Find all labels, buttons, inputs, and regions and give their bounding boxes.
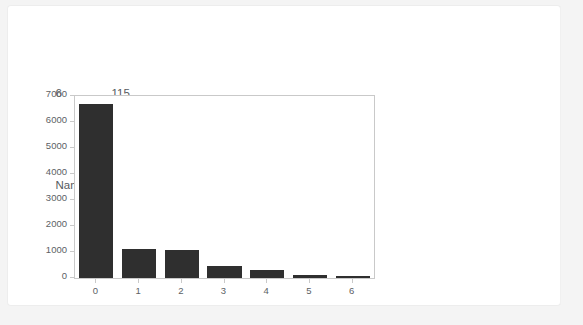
bar <box>250 270 284 278</box>
x-axis-tick-mark <box>352 279 353 283</box>
bars-layer <box>75 96 374 278</box>
x-axis-tick-label: 0 <box>83 285 107 296</box>
x-axis-tick-mark <box>95 279 96 283</box>
y-axis-tick-label: 7000 <box>46 88 67 99</box>
bar <box>122 249 156 278</box>
x-axis-tick-mark <box>224 279 225 283</box>
x-axis-tick-mark <box>138 279 139 283</box>
plot-area <box>74 95 375 279</box>
y-axis: 01000200030004000500060007000 <box>30 95 74 279</box>
y-axis-tick-label: 6000 <box>46 114 67 125</box>
bar-chart-figure: 01000200030004000500060007000 0123456 <box>30 86 380 296</box>
y-axis-tick-label: 4000 <box>46 166 67 177</box>
x-axis-tick-mark <box>266 279 267 283</box>
output-card: 6115 Name:index, dtype: int64 0100020003… <box>8 6 560 305</box>
y-axis-tick-label: 5000 <box>46 140 67 151</box>
bar <box>293 275 327 278</box>
x-axis-tick-mark <box>309 279 310 283</box>
bar <box>165 250 199 278</box>
x-axis-tick-mark <box>181 279 182 283</box>
notebook-output-screen: 6115 Name:index, dtype: int64 0100020003… <box>0 0 583 325</box>
x-axis-tick-label: 5 <box>297 285 321 296</box>
x-axis: 0123456 <box>74 279 375 299</box>
y-axis-tick-label: 2000 <box>46 218 67 229</box>
bar <box>336 276 370 278</box>
y-axis-tick-label: 1000 <box>46 244 67 255</box>
bar <box>207 266 241 278</box>
bar <box>79 104 113 278</box>
page-right-rule <box>560 6 561 305</box>
x-axis-tick-label: 3 <box>212 285 236 296</box>
y-axis-tick-label: 3000 <box>46 192 67 203</box>
x-axis-tick-label: 6 <box>340 285 364 296</box>
y-axis-tick-label: 0 <box>62 270 67 281</box>
x-axis-tick-label: 1 <box>126 285 150 296</box>
x-axis-tick-label: 4 <box>254 285 278 296</box>
x-axis-tick-label: 2 <box>169 285 193 296</box>
